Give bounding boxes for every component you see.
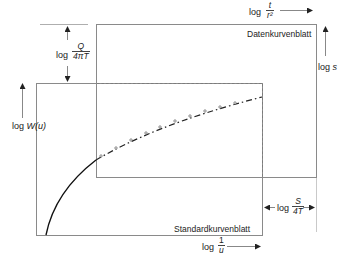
- type-curve-solid: [46, 160, 96, 235]
- standard-x-prefix: log: [202, 242, 214, 252]
- offset-horizontal-fraction: S 4T: [292, 197, 304, 216]
- offset-vertical-prefix: log: [56, 50, 68, 60]
- offset-horizontal-prefix: log: [277, 203, 289, 213]
- standard-curve-sheet: [37, 84, 263, 236]
- data-y-var: s: [333, 62, 338, 72]
- data-y-label: log s: [318, 62, 337, 72]
- data-sheet-label: Datenkurvenblatt: [247, 29, 311, 39]
- offset-vertical-fraction: Q 4πT: [72, 42, 90, 61]
- data-curve-sheet: [97, 25, 317, 178]
- standard-y-prefix: log: [12, 121, 24, 131]
- standard-x-fraction: 1 u: [218, 236, 225, 255]
- standard-sheet-label: Standardkurvenblatt: [174, 224, 250, 234]
- data-x-prefix: log: [249, 7, 261, 17]
- offset-horizontal-den: 4T: [292, 207, 304, 216]
- diagram-canvas: [0, 0, 346, 272]
- data-x-fraction: t r²: [266, 1, 274, 20]
- data-x-den: r²: [266, 11, 274, 20]
- standard-y-var: W(u): [27, 121, 47, 131]
- offset-vertical-den: 4πT: [72, 52, 90, 61]
- type-curve-dashed: [96, 97, 262, 160]
- data-y-prefix: log: [318, 62, 330, 72]
- standard-x-den: u: [218, 246, 225, 255]
- data-points: [100, 102, 236, 157]
- standard-y-label: log W(u): [12, 121, 46, 131]
